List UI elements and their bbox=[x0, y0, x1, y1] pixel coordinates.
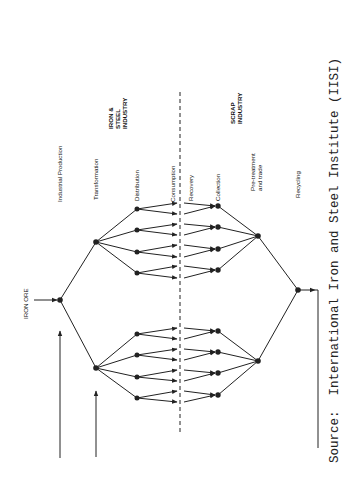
upper-branch bbox=[96, 203, 298, 290]
label-iron-steel-line1: IRON & bbox=[107, 107, 114, 129]
label-iron-steel-line2: STEEL bbox=[114, 109, 121, 129]
node-transform-upper bbox=[93, 239, 99, 245]
node-root bbox=[57, 297, 63, 303]
label-recycling: Recycling bbox=[294, 171, 301, 198]
node-recycling bbox=[295, 287, 301, 293]
recycling-feedback bbox=[60, 290, 318, 458]
steel-scrap-flow-diagram: Industrial Production Transformation Dis… bbox=[0, 0, 355, 492]
root-edges bbox=[60, 242, 96, 368]
label-transformation: Transformation bbox=[92, 158, 99, 200]
node-pretreat-lower bbox=[255, 358, 261, 364]
label-pretreatment: Pre-treatment bbox=[249, 153, 256, 191]
label-pretreatment-and-trade: and trade bbox=[256, 164, 263, 191]
node-pretreat-upper bbox=[255, 233, 261, 239]
label-distribution: Distribution bbox=[133, 169, 140, 201]
label-iron-ore: IRON ORE bbox=[22, 288, 29, 319]
node-transform-lower bbox=[93, 365, 99, 371]
label-consumption: Consumption bbox=[169, 165, 176, 202]
label-industrial-production: Industrial Production bbox=[56, 145, 63, 202]
lower-branch bbox=[96, 290, 298, 402]
label-collection: Collection bbox=[214, 173, 221, 201]
label-recovery: Recovery bbox=[187, 174, 194, 201]
nodes bbox=[57, 203, 301, 400]
label-iron-steel-line3: INDUSTRY bbox=[121, 97, 128, 129]
source-caption: Source: International Iron and Steel Ins… bbox=[328, 58, 342, 463]
label-scrap-line2: INDUSTRY bbox=[236, 92, 243, 124]
stage-labels: Industrial Production Transformation Dis… bbox=[56, 145, 301, 202]
label-scrap-line1: SCRAP bbox=[229, 102, 236, 124]
